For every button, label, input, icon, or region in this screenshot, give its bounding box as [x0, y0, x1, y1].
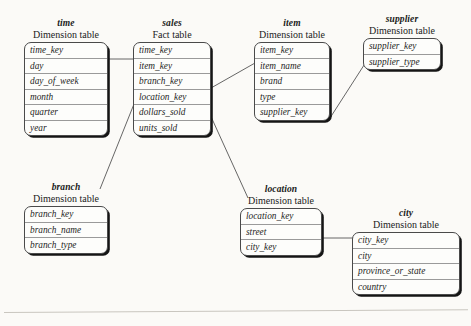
field-row: branch_type	[25, 238, 107, 253]
field-row: day	[25, 59, 107, 75]
schema-diagram-canvas: time Dimension table time_key day day_of…	[0, 0, 471, 326]
field-row: supplier_key	[364, 39, 440, 55]
field-row: province_or_state	[353, 264, 459, 280]
field-row: units_sold	[134, 121, 210, 136]
table-sales[interactable]: sales Fact table time_key item_key branc…	[133, 18, 211, 136]
table-city-kind: Dimension table	[352, 219, 460, 231]
table-supplier-title: supplier	[363, 14, 441, 25]
table-location-box: location_key street city_key	[240, 208, 322, 256]
table-time-kind: Dimension table	[24, 29, 108, 41]
link-item-supplier	[330, 62, 366, 118]
table-supplier-box: supplier_key supplier_type	[363, 38, 441, 70]
table-location-kind: Dimension table	[240, 195, 322, 207]
field-row: location_key	[241, 209, 321, 225]
field-row: city	[353, 249, 459, 265]
field-row: street	[241, 225, 321, 241]
table-time-box: time_key day day_of_week month quarter y…	[24, 42, 108, 136]
field-row: brand	[255, 74, 329, 90]
field-row: quarter	[25, 105, 107, 121]
field-row: country	[353, 280, 459, 295]
page-divider-rule	[4, 309, 468, 313]
table-item-box: item_key item_name brand type supplier_k…	[254, 42, 330, 121]
field-row: city_key	[241, 240, 321, 255]
field-row: month	[25, 90, 107, 106]
table-item-title: item	[254, 18, 330, 29]
field-row: supplier_key	[255, 105, 329, 120]
table-location-title: location	[240, 184, 322, 195]
field-row: time_key	[134, 43, 210, 59]
table-supplier[interactable]: supplier Dimension table supplier_key su…	[363, 14, 441, 70]
table-time[interactable]: time Dimension table time_key day day_of…	[24, 18, 108, 136]
table-sales-box: time_key item_key branch_key location_ke…	[133, 42, 211, 136]
field-row: branch_name	[25, 223, 107, 239]
table-sales-kind: Fact table	[133, 29, 211, 41]
field-row: city_key	[353, 233, 459, 249]
table-branch-kind: Dimension table	[24, 193, 108, 205]
field-row: branch_key	[134, 74, 210, 90]
field-row: item_key	[255, 43, 329, 59]
table-location[interactable]: location Dimension table location_key st…	[240, 184, 322, 256]
field-row: supplier_type	[364, 55, 440, 70]
field-row: branch_key	[25, 207, 107, 223]
table-supplier-kind: Dimension table	[363, 25, 441, 37]
field-row: item_key	[134, 59, 210, 75]
table-city-box: city_key city province_or_state country	[352, 232, 460, 295]
field-row: item_name	[255, 59, 329, 75]
table-city[interactable]: city Dimension table city_key city provi…	[352, 208, 460, 295]
table-item-kind: Dimension table	[254, 29, 330, 41]
field-row: time_key	[25, 43, 107, 59]
link-sales-item	[211, 63, 255, 88]
table-branch-box: branch_key branch_name branch_type	[24, 206, 108, 254]
field-row: dollars_sold	[134, 105, 210, 121]
field-row: year	[25, 121, 107, 136]
table-sales-title: sales	[133, 18, 211, 29]
field-row: day_of_week	[25, 74, 107, 90]
field-row: location_key	[134, 90, 210, 106]
table-branch[interactable]: branch Dimension table branch_key branch…	[24, 182, 108, 254]
table-city-title: city	[352, 208, 460, 219]
table-time-title: time	[24, 18, 108, 29]
field-row: type	[255, 90, 329, 106]
table-branch-title: branch	[24, 182, 108, 193]
table-item[interactable]: item Dimension table item_key item_name …	[254, 18, 330, 121]
